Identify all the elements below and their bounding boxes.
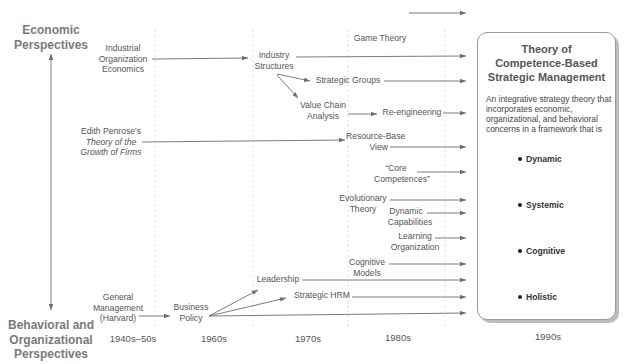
- node-line: Industrial: [94, 43, 152, 54]
- trait-systemic: Systemic: [518, 200, 564, 210]
- node-industry-structures: Industry Structures: [250, 50, 298, 71]
- node-line: Organization: [94, 54, 152, 65]
- node-line: Economics: [94, 64, 152, 75]
- node-line: “Core: [374, 163, 428, 174]
- bullet-icon: [518, 203, 522, 207]
- node-core-competences: “Core Competences”: [374, 163, 428, 184]
- axis-bottom-line1: Behavioral and: [4, 318, 98, 333]
- node-business-policy: Business Policy: [171, 302, 211, 323]
- node-line: Organization: [390, 242, 440, 253]
- trait-dynamic: Dynamic: [518, 154, 562, 164]
- bullet-icon: [518, 157, 522, 161]
- node-learning-organization: Learning Organization: [390, 231, 440, 252]
- axis-bottom-line3: Perspectives: [4, 347, 98, 362]
- node-general-management: General Management (Harvard): [92, 292, 144, 324]
- bullet-icon: [518, 249, 522, 253]
- node-leadership: Leadership: [255, 274, 301, 285]
- node-game-theory: Game Theory: [353, 33, 407, 44]
- node-line: Management: [92, 303, 144, 314]
- node-cognitive-models: Cognitive Models: [346, 257, 388, 278]
- node-line: Resource-Base: [346, 131, 402, 142]
- axis-top-label: Economic Perspectives: [8, 23, 94, 52]
- box-title-line1: Theory of: [478, 42, 615, 56]
- era-1940s-50s: 1940s–50s: [101, 333, 165, 344]
- era-1980s: 1980s: [373, 332, 423, 343]
- node-line: Dynamic: [386, 206, 434, 217]
- trait-label: Dynamic: [526, 154, 562, 164]
- node-line: Business: [171, 302, 211, 313]
- node-line: General: [92, 292, 144, 303]
- node-line: Capabilities: [386, 217, 434, 228]
- trait-holistic: Holistic: [518, 292, 557, 302]
- era-1960s: 1960s: [189, 333, 239, 344]
- node-value-chain-analysis: Value Chain Analysis: [298, 100, 348, 121]
- axis-bottom-line2: Organizational: [4, 333, 98, 348]
- axis-top-line1: Economic: [8, 23, 94, 38]
- node-penrose: Edith Penrose's Theory of the Growth of …: [78, 126, 144, 158]
- node-line: Industry: [250, 50, 298, 61]
- trait-label: Holistic: [526, 292, 557, 302]
- box-description: An integrative strategy theory that inco…: [486, 94, 612, 134]
- box-title-line3: Strategic Management: [478, 70, 615, 84]
- node-line: Analysis: [298, 111, 348, 122]
- era-1970s: 1970s: [283, 333, 333, 344]
- node-line: Models: [346, 268, 388, 279]
- target-theory-box: Theory of Competence-Based Strategic Man…: [477, 32, 616, 320]
- node-line: Policy: [171, 313, 211, 324]
- node-line: Value Chain: [298, 100, 348, 111]
- node-line: (Harvard): [92, 313, 144, 324]
- bullet-icon: [518, 295, 522, 299]
- node-strategic-groups: Strategic Groups: [313, 75, 383, 86]
- node-evolutionary-theory: Evolutionary Theory: [336, 193, 390, 214]
- node-industrial-organization-economics: Industrial Organization Economics: [94, 43, 152, 75]
- axis-bottom-label: Behavioral and Organizational Perspectiv…: [4, 318, 98, 362]
- node-line: Growth of Firms: [78, 147, 144, 158]
- era-1990s: 1990s: [523, 331, 573, 342]
- node-line: Structures: [250, 61, 298, 72]
- node-line: Competences”: [374, 174, 428, 185]
- trait-cognitive: Cognitive: [518, 246, 565, 256]
- axis-top-line2: Perspectives: [8, 38, 94, 53]
- box-title: Theory of Competence-Based Strategic Man…: [478, 42, 615, 84]
- node-strategic-hrm: Strategic HRM: [292, 290, 352, 301]
- node-line: Edith Penrose's: [78, 126, 144, 137]
- node-line: Theory of the: [78, 137, 144, 148]
- node-line: Evolutionary: [336, 193, 390, 204]
- node-line: View: [346, 142, 402, 153]
- node-line: Theory: [336, 204, 390, 215]
- box-title-line2: Competence-Based: [478, 56, 615, 70]
- trait-label: Cognitive: [526, 246, 565, 256]
- node-resource-base-view: Resource-Base View: [346, 131, 402, 152]
- node-dynamic-capabilities: Dynamic Capabilities: [386, 206, 434, 227]
- node-line: Learning: [390, 231, 440, 242]
- node-line: Cognitive: [346, 257, 388, 268]
- trait-label: Systemic: [526, 200, 564, 210]
- node-reengineering: Re-engineering: [381, 107, 443, 118]
